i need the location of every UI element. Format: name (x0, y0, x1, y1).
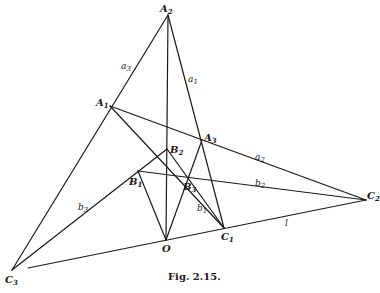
label-a3: a3 (121, 61, 131, 73)
projective-geometry-figure: A2 A1 A3 B2 B1 B3 O C1 C2 C3 a3 a1 a2 b1… (0, 0, 380, 293)
line-b2 (138, 171, 366, 200)
label-C1: C1 (221, 231, 234, 244)
label-b2: b2 (255, 178, 266, 190)
label-b3: b3 (78, 202, 89, 214)
label-B3: B3 (182, 181, 196, 194)
label-b1: b1 (197, 203, 207, 215)
label-C2: C2 (367, 190, 380, 203)
label-O: O (162, 243, 171, 254)
label-A2: A2 (159, 3, 173, 16)
line-b3 (12, 149, 167, 270)
figure-caption: Fig. 2.15. (168, 271, 221, 282)
label-a2: a2 (255, 152, 265, 164)
line-a1 (168, 15, 224, 228)
label-a1: a1 (188, 74, 198, 86)
line-a2 (110, 106, 366, 200)
label-l: l (285, 218, 288, 228)
label-C3: C3 (5, 274, 18, 287)
label-A1: A1 (95, 97, 109, 110)
